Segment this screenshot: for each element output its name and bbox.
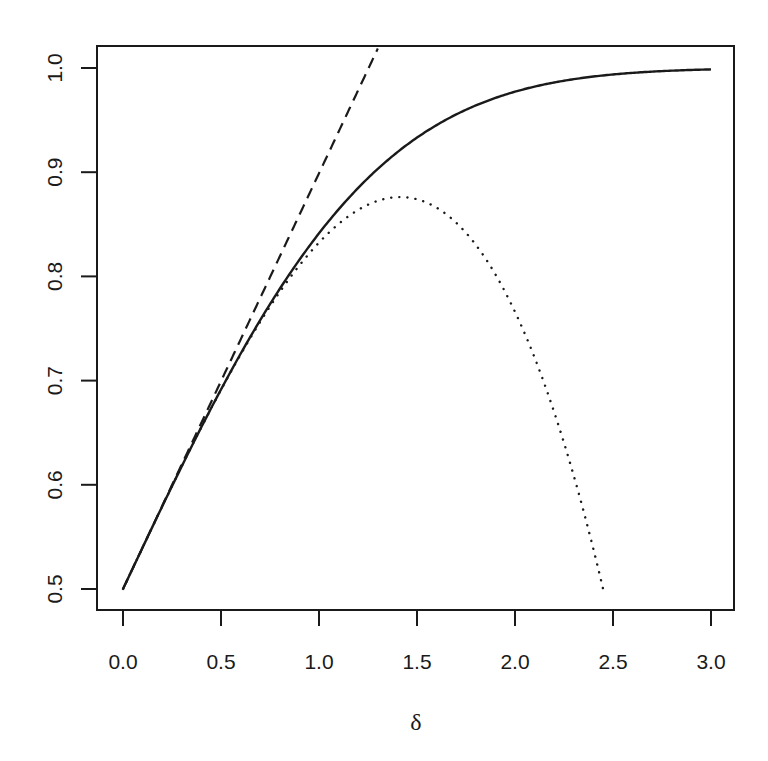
x-tick-label: 1.0: [304, 650, 333, 673]
series-solid-line: [123, 69, 711, 589]
x-tick-label: 2.5: [598, 650, 627, 673]
plot-frame: [97, 46, 734, 610]
y-tick-label: 0.9: [43, 158, 66, 187]
x-tick-label: 2.0: [500, 650, 529, 673]
x-tick-label: 1.5: [402, 650, 431, 673]
chart: 0.00.51.01.52.02.53.0 0.50.60.70.80.91.0…: [0, 0, 768, 761]
y-tick-label: 0.8: [43, 262, 66, 291]
series-dotted-line: [123, 197, 603, 589]
y-axis: 0.50.60.70.80.91.0: [43, 53, 97, 603]
y-tick-label: 0.5: [43, 574, 66, 603]
plot-area: [123, 49, 711, 589]
y-tick-label: 0.7: [43, 366, 66, 395]
y-tick-label: 0.6: [43, 470, 66, 499]
x-tick-label: 3.0: [696, 650, 725, 673]
x-tick-label: 0.5: [206, 650, 235, 673]
y-tick-label: 1.0: [43, 53, 66, 82]
x-axis-title: δ: [410, 709, 421, 735]
x-axis: 0.00.51.01.52.02.53.0: [108, 610, 725, 673]
x-tick-label: 0.0: [108, 650, 137, 673]
